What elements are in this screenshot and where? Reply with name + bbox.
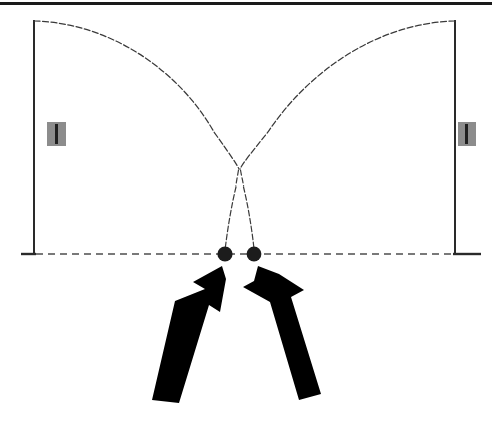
figure-root: Electric field lines converging on two p… bbox=[0, 0, 492, 426]
diagram-canvas bbox=[0, 0, 492, 426]
figure-background bbox=[0, 0, 492, 426]
right-electrode-core bbox=[465, 124, 468, 144]
left-charge-dot bbox=[217, 246, 232, 261]
left-electrode-core bbox=[55, 124, 58, 144]
right-charge-dot bbox=[247, 247, 262, 262]
